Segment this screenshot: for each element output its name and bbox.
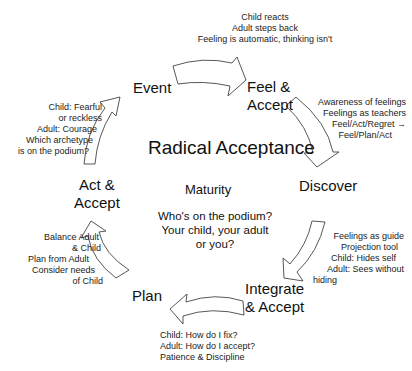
note-line: Plan from Adult — [10, 254, 103, 265]
stage-event: Event — [133, 79, 171, 97]
stage-label: Event — [133, 79, 171, 97]
curved-arrow-icon — [170, 294, 244, 324]
center-question-line: Who's on the podium? — [150, 209, 280, 223]
stage-act-accept: Act & Accept — [74, 176, 120, 212]
stage-label: Accept — [247, 96, 293, 114]
note-line: Consider needs — [10, 265, 103, 276]
note-discover-to-integrate-tail: hiding — [313, 275, 337, 286]
stage-label: Accept — [74, 194, 120, 212]
stage-label: Discover — [299, 177, 357, 195]
stage-integrate-accept: Integrate & Accept — [245, 280, 304, 316]
note-line: Child: Hides self — [310, 253, 404, 264]
stage-label: Integrate — [245, 280, 304, 298]
note-line: Adult: Courage — [0, 124, 102, 135]
curved-arrow-icon — [173, 57, 246, 96]
note-line: Child: Fearful — [0, 102, 102, 113]
center-question-line: or you? — [150, 237, 280, 251]
note-event-to-feel: Child reacts Adult steps back Feeling is… — [185, 12, 345, 45]
stage-label: Plan — [132, 287, 162, 305]
note-plan-to-act: Balance Adult & Child Plan from Adult Co… — [10, 232, 103, 287]
note-line: Feelings as guide — [310, 231, 404, 242]
note-line: & Child — [10, 243, 103, 254]
diagram-title: Radical Acceptance — [148, 137, 315, 159]
note-line: Adult: How do I accept? — [160, 341, 255, 352]
note-line: Feel/Plan/Act — [300, 130, 406, 141]
note-line: Child reacts — [185, 12, 345, 23]
note-line: Projection tool — [310, 242, 404, 253]
note-discover-to-integrate: Feelings as guide Projection tool Child:… — [310, 231, 404, 275]
note-line: Feelings as teachers — [300, 108, 406, 119]
note-act-to-event: Child: Fearful or reckless Adult: Courag… — [0, 102, 102, 157]
note-line: Adult steps back — [185, 23, 345, 34]
center-subtitle: Maturity — [185, 183, 231, 198]
note-line: Child: How do I fix? — [160, 330, 255, 341]
note-line: of Child — [10, 276, 103, 287]
note-feel-to-discover: Awareness of feelings Feelings as teache… — [300, 97, 406, 141]
stage-label: Feel & — [247, 78, 293, 96]
stage-discover: Discover — [299, 177, 357, 195]
center-question: Who's on the podium? Your child, your ad… — [150, 209, 280, 251]
note-line: Feel/Act/Regret → — [300, 119, 406, 130]
stage-plan: Plan — [132, 287, 162, 305]
note-line: Patience & Discipline — [160, 352, 255, 363]
stage-label: & Accept — [245, 298, 304, 316]
note-line: Awareness of feelings — [300, 97, 406, 108]
stage-feel-accept: Feel & Accept — [247, 78, 293, 114]
note-line: or reckless — [0, 113, 102, 124]
note-line: Balance Adult — [10, 232, 103, 243]
note-integrate-to-plan: Child: How do I fix? Adult: How do I acc… — [160, 330, 255, 363]
center-question-line: Your child, your adult — [150, 223, 280, 237]
note-line: Which archetype — [0, 135, 102, 146]
note-line: is on the podium? — [0, 146, 102, 157]
note-line: Adult: Sees without — [310, 264, 404, 275]
stage-label: Act & — [74, 176, 120, 194]
note-line: Feeling is automatic, thinking isn't — [185, 34, 345, 45]
